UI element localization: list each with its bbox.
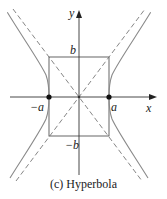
asymptote-positive bbox=[16, 9, 145, 181]
figure-caption: (c) Hyperbola bbox=[0, 178, 167, 190]
label-neg-b: −b bbox=[65, 139, 79, 151]
x-axis-arrow-icon bbox=[149, 94, 157, 100]
origin-point bbox=[78, 96, 81, 99]
vertex-pos-a bbox=[106, 94, 111, 99]
asymptote-negative bbox=[13, 9, 142, 181]
y-axis-arrow-icon bbox=[76, 10, 82, 18]
y-axis-label: y bbox=[69, 7, 74, 19]
hyperbola-left-branch bbox=[7, 12, 49, 178]
hyperbola-diagram bbox=[0, 0, 167, 199]
x-axis-label: x bbox=[146, 102, 151, 114]
hyperbola-right-branch bbox=[109, 12, 151, 178]
label-b: b bbox=[70, 44, 76, 56]
label-a: a bbox=[111, 101, 117, 113]
label-neg-a: −a bbox=[30, 101, 44, 113]
vertex-neg-a bbox=[46, 94, 51, 99]
